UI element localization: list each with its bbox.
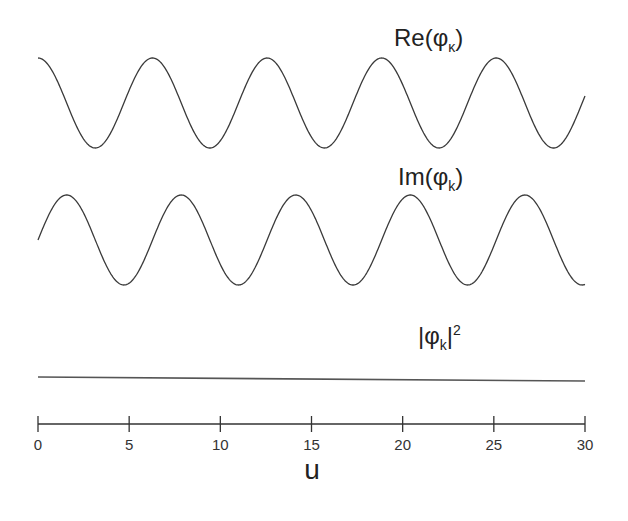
x-tick-label: 0 (34, 436, 42, 453)
abs-squared-label: |φk|2 (418, 322, 461, 353)
x-tick-label: 25 (485, 436, 502, 453)
x-tick-label: 10 (212, 436, 229, 453)
x-tick-label: 30 (577, 436, 594, 453)
re-label: Re(φκ) (394, 24, 463, 55)
im-label: Im(φk) (398, 163, 463, 194)
x-tick-label: 15 (303, 436, 320, 453)
re-curve (38, 58, 585, 148)
abs-squared-line (38, 377, 585, 381)
x-tick-label: 20 (394, 436, 411, 453)
im-curve (38, 195, 585, 285)
x-axis-label: u (304, 454, 320, 486)
x-tick-label: 5 (125, 436, 133, 453)
x-axis (38, 416, 585, 432)
